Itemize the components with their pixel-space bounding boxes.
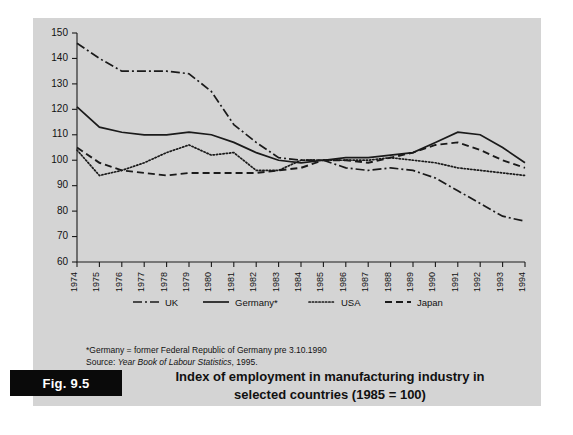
y-axis-tick-labels: 60708090100110120130140150 xyxy=(51,27,68,267)
x-tick-label: 1981 xyxy=(226,272,236,292)
y-tick-label: 70 xyxy=(57,230,69,241)
x-tick-label: 1982 xyxy=(248,272,258,292)
y-tick-label: 110 xyxy=(52,128,68,139)
x-tick-label: 1992 xyxy=(472,272,482,292)
x-tick-label: 1980 xyxy=(203,272,213,292)
series-line-usa xyxy=(77,145,525,176)
x-tick-label: 1991 xyxy=(450,272,460,292)
footnote-source-prefix: Source: xyxy=(86,357,118,367)
x-axis-tick-labels: 1974197519761977197819791980198119821983… xyxy=(69,272,527,292)
x-tick-label: 1976 xyxy=(114,272,124,292)
y-tick-label: 60 xyxy=(57,256,69,267)
y-tick-label: 140 xyxy=(51,52,68,63)
y-tick-label: 100 xyxy=(51,154,68,165)
legend-label-japan: Japan xyxy=(417,297,443,308)
y-tick-label: 130 xyxy=(51,78,68,89)
footnote-source-suffix: , 1995. xyxy=(232,357,258,367)
figure-title-line-2: selected countries (1985 = 100) xyxy=(130,386,530,404)
x-tick-label: 1985 xyxy=(315,272,325,292)
y-tick-label: 120 xyxy=(51,103,68,114)
chart-series-lines xyxy=(77,43,525,221)
chart-legend: UKGermany*USAJapan xyxy=(133,297,443,308)
legend-label-usa: USA xyxy=(341,297,361,308)
y-tick-label: 80 xyxy=(57,205,69,216)
footnote-source: Source: Year Book of Labour Statistics, … xyxy=(86,356,327,368)
x-tick-label: 1983 xyxy=(271,272,281,292)
footnote-source-title: Year Book of Labour Statistics xyxy=(118,357,232,367)
figure-footnote: *Germany = former Federal Republic of Ge… xyxy=(86,344,327,369)
legend-label-uk: UK xyxy=(165,297,179,308)
series-line-germany xyxy=(77,107,525,163)
y-axis-ticks xyxy=(72,33,77,262)
x-tick-label: 1978 xyxy=(159,272,169,292)
employment-index-line-chart: 60708090100110120130140150 1974197519761… xyxy=(33,18,541,328)
x-tick-label: 1984 xyxy=(293,272,303,292)
series-line-japan xyxy=(77,142,525,175)
figure-panel: 60708090100110120130140150 1974197519761… xyxy=(33,18,541,406)
y-tick-label: 90 xyxy=(57,179,69,190)
chart-axes xyxy=(77,33,525,262)
x-tick-label: 1987 xyxy=(360,272,370,292)
x-tick-label: 1989 xyxy=(405,272,415,292)
x-tick-label: 1990 xyxy=(427,272,437,292)
x-tick-label: 1994 xyxy=(517,272,527,292)
x-tick-label: 1979 xyxy=(181,272,191,292)
legend-label-germany: Germany* xyxy=(235,297,278,308)
x-tick-label: 1993 xyxy=(495,272,505,292)
x-tick-label: 1988 xyxy=(383,272,393,292)
x-axis-ticks xyxy=(77,262,525,267)
footnote-germany-note: *Germany = former Federal Republic of Ge… xyxy=(86,344,327,356)
figure-number-tab: Fig. 9.5 xyxy=(10,370,122,396)
x-tick-label: 1986 xyxy=(338,272,348,292)
x-tick-label: 1975 xyxy=(91,272,101,292)
x-tick-label: 1974 xyxy=(69,272,79,292)
x-tick-label: 1977 xyxy=(136,272,146,292)
figure-title-line-1: Index of employment in manufacturing ind… xyxy=(130,368,530,386)
figure-title: Index of employment in manufacturing ind… xyxy=(130,368,530,403)
y-tick-label: 150 xyxy=(51,27,68,38)
